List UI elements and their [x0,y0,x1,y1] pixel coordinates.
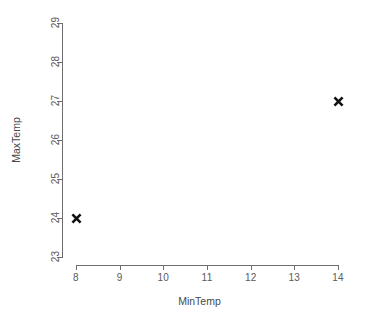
y-tick-label: 29 [50,11,61,35]
x-tick-mark [294,265,295,270]
x-tick-mark [163,265,164,270]
y-tick-label: 26 [50,128,61,152]
x-tick-mark [207,265,208,270]
y-axis-title: MaxTemp [10,100,22,180]
x-tick-label: 13 [279,272,309,283]
x-tick-label: 8 [61,272,91,283]
x-tick-mark [251,265,252,270]
x-tick-label: 9 [105,272,135,283]
y-tick-label: 28 [50,50,61,74]
x-tick-mark [338,265,339,270]
x-tick-label: 10 [148,272,178,283]
y-tick-label: 23 [50,245,61,269]
data-point-marker [333,96,344,107]
x-tick-mark [76,265,77,270]
scatter-plot-canvas: 891011121314 23242526272829 MinTemp MaxT… [0,0,367,323]
y-tick-label: 27 [50,89,61,113]
x-tick-label: 12 [236,272,266,283]
y-axis-line [62,23,63,258]
y-tick-label: 24 [50,206,61,230]
x-tick-label: 14 [323,272,353,283]
y-tick-label: 25 [50,167,61,191]
x-tick-label: 11 [192,272,222,283]
data-point-marker [71,213,82,224]
x-axis-title: MinTemp [0,295,367,307]
x-tick-mark [120,265,121,270]
